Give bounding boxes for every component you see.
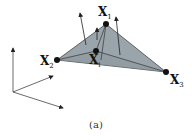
coordinate-axes <box>13 48 63 108</box>
label-x1: X1 <box>98 6 112 21</box>
figure-caption: (a) <box>0 119 192 130</box>
vertex-x1 <box>103 21 109 27</box>
label-xi: Xi <box>89 54 101 69</box>
label-x2: X2 <box>40 55 54 70</box>
triangle-faces <box>57 24 166 72</box>
label-x3: X3 <box>170 74 184 89</box>
vertex-x2 <box>54 57 60 63</box>
vertex-x3 <box>163 69 169 75</box>
